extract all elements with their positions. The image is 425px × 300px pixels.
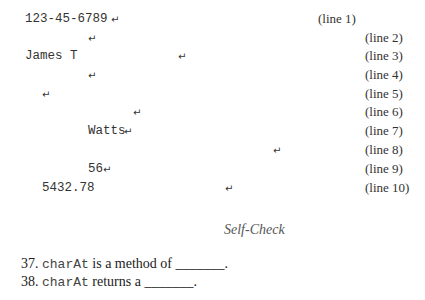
return-icon: ↵ (273, 145, 281, 156)
return-icon: ↵ (133, 107, 141, 118)
return-icon: ↵ (124, 126, 132, 137)
line-2-label: (line 2) (365, 30, 403, 46)
code-term: charAt (42, 275, 89, 290)
section-heading: Self-Check (224, 222, 285, 238)
answer-blank: _______ (176, 256, 225, 271)
question-number: 37. (21, 256, 39, 271)
line-10-label: (line 10) (365, 180, 409, 196)
return-icon: ↵ (88, 33, 96, 44)
question-text: is a method of (89, 256, 176, 271)
line-3-label: (line 3) (365, 48, 403, 64)
question-38: 38. charAt returns a _______. (21, 274, 197, 290)
line-6-label: (line 6) (365, 104, 403, 120)
line-3-text: James T (25, 49, 78, 63)
return-icon: ↵ (178, 51, 186, 62)
question-text: returns a (89, 274, 145, 289)
return-icon: ↵ (225, 183, 233, 194)
question-end: . (193, 274, 197, 289)
line-1-text: 123-45-6789 (25, 12, 108, 26)
question-end: . (225, 256, 229, 271)
return-icon: ↵ (42, 89, 50, 100)
line-9-text: 56 (88, 162, 103, 176)
return-icon: ↵ (111, 14, 119, 25)
question-37: 37. charAt is a method of _______. (21, 256, 228, 272)
line-1-label: (line 1) (318, 11, 356, 27)
line-5-label: (line 5) (365, 86, 403, 102)
line-4-label: (line 4) (365, 67, 403, 83)
code-term: charAt (42, 257, 89, 272)
return-icon: ↵ (103, 164, 111, 175)
line-9-label: (line 9) (365, 161, 403, 177)
answer-blank: _______ (144, 274, 193, 289)
line-10-text: 5432.78 (42, 181, 95, 195)
line-7-label: (line 7) (365, 123, 403, 139)
line-7-text: Watts (88, 124, 126, 138)
question-number: 38. (21, 274, 39, 289)
line-8-label: (line 8) (365, 142, 403, 158)
return-icon: ↵ (88, 70, 96, 81)
